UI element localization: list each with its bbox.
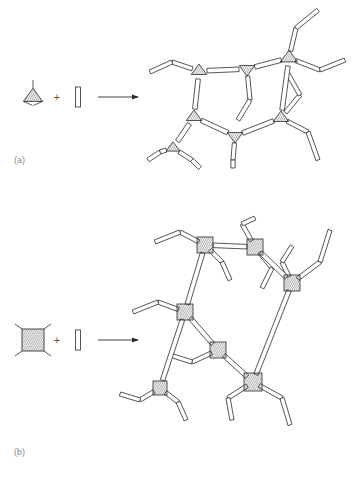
plus-operator-a: + <box>54 91 60 103</box>
framework-rod-b-0 <box>213 243 247 249</box>
panel-label-b: (b) <box>14 447 25 457</box>
panel-label-a: (a) <box>14 155 25 165</box>
background <box>0 0 359 486</box>
reagent-rod-linker-a <box>76 87 81 107</box>
pendant-rod-a-6-s1 <box>231 143 237 160</box>
reagent-rod-linker-b <box>76 330 81 350</box>
pendant-rod-a-6-s2 <box>231 160 235 168</box>
schematic-svg: + + (a) (b) <box>0 0 359 486</box>
plus-operator-b: + <box>54 334 60 346</box>
figure-canvas: + + (a) (b) <box>0 0 359 486</box>
framework-rod-a-0 <box>207 67 239 73</box>
